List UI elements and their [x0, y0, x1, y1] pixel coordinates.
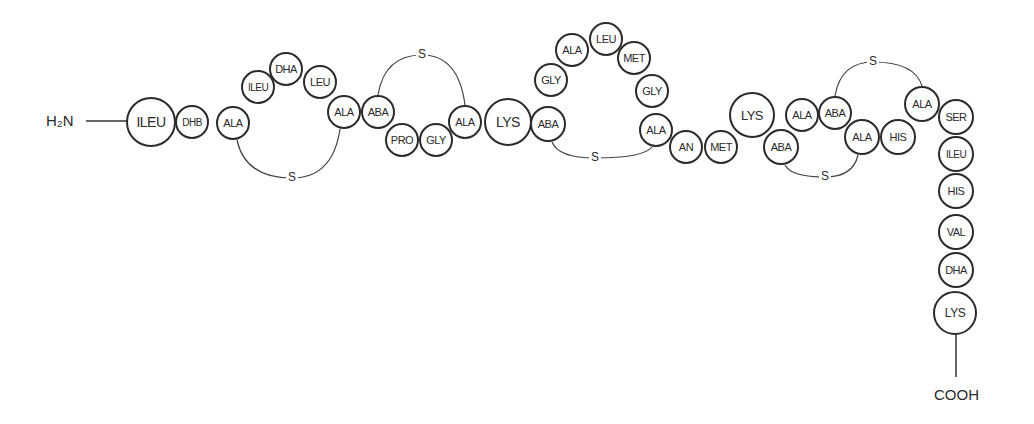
- residue-his: HIS: [880, 119, 916, 155]
- residue-lys: LYS: [484, 98, 532, 146]
- residue-dha: DHA: [938, 252, 974, 288]
- residue-ala: ALA: [216, 106, 250, 140]
- n-terminus-label: H₂N: [46, 112, 74, 129]
- residue-pro: PRO: [385, 123, 419, 157]
- residue-leu: LEU: [303, 65, 337, 99]
- residue-met: MET: [704, 130, 738, 164]
- residue-val: VAL: [938, 214, 974, 250]
- residue-gly: GLY: [419, 123, 453, 157]
- sulfur-label: S: [819, 169, 831, 183]
- residue-ala: ALA: [327, 95, 361, 129]
- residue-an: AN: [669, 130, 703, 164]
- residue-ala: ALA: [785, 98, 819, 132]
- residue-aba: ABA: [763, 129, 799, 165]
- residue-lys: LYS: [933, 291, 977, 335]
- residue-ala: ALA: [448, 105, 482, 139]
- residue-gly: GLY: [635, 74, 669, 108]
- residue-dhb: DHB: [175, 105, 209, 139]
- residue-aba: ABA: [361, 95, 395, 129]
- sulfur-label: S: [589, 150, 601, 164]
- sulfur-bridge: [378, 55, 465, 105]
- residue-ala: ALA: [555, 33, 589, 67]
- sulfur-label: S: [286, 170, 298, 184]
- residue-ala: ALA: [904, 86, 940, 122]
- residue-lys: LYS: [729, 92, 775, 138]
- residue-gly: GLY: [534, 63, 568, 97]
- residue-dha: DHA: [269, 52, 303, 86]
- sulfur-bridge: [552, 142, 652, 158]
- residue-ala: ALA: [844, 119, 880, 155]
- residue-met: MET: [617, 41, 651, 75]
- residue-ala: ALA: [639, 113, 673, 147]
- c-terminus-label: COOH: [934, 386, 979, 403]
- residue-ser: SER: [938, 99, 974, 135]
- sulfur-label: S: [416, 47, 428, 61]
- residue-ileu: ILEU: [126, 97, 176, 147]
- peptide-diagram: H₂N COOH ILEUDHBALAILEUDHALEUALAABAPROGL…: [0, 0, 1034, 424]
- residue-ileu: ILEU: [938, 136, 974, 172]
- residue-his: HIS: [938, 173, 974, 209]
- residue-aba: ABA: [530, 106, 566, 142]
- sulfur-label: S: [867, 54, 879, 68]
